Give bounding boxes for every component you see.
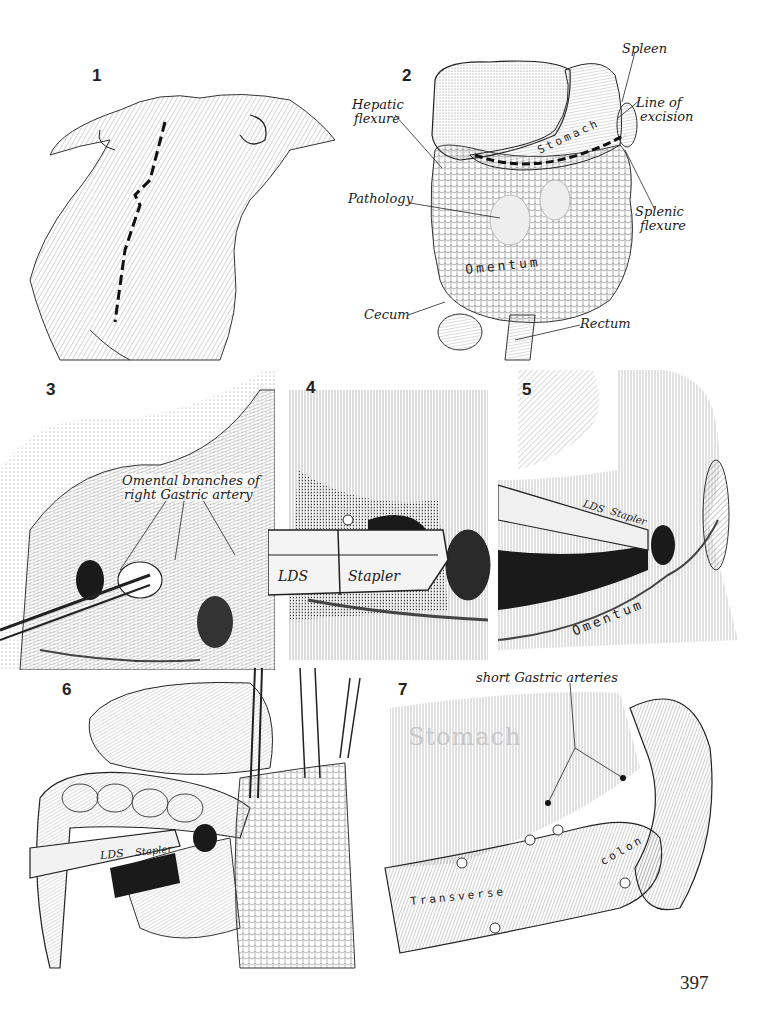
- figure-number-3: 3: [46, 380, 55, 400]
- label-omental-branches-1: Omental branches of: [122, 474, 260, 487]
- label-rectum: Rectum: [580, 317, 631, 330]
- page-number: 397: [680, 972, 709, 994]
- label-spleen: Spleen: [622, 42, 667, 55]
- label-cecum: Cecum: [364, 308, 410, 321]
- label-short-gastric-arteries: short Gastric arteries: [476, 671, 618, 684]
- label-pathology: Pathology: [348, 192, 413, 205]
- label-hepatic-2: flexure: [354, 112, 400, 125]
- figure-1-torso-incision: 1: [0, 60, 340, 370]
- figure-3-omental-branches: 3 Omental branches of right Gastric arte…: [0, 370, 275, 670]
- figure-number-1: 1: [92, 66, 101, 86]
- stapler-label-lds: LDS: [278, 570, 308, 583]
- omental-dissection-illustration: [0, 370, 275, 670]
- figure-number-2: 2: [402, 66, 411, 86]
- figure-number-6: 6: [62, 680, 71, 700]
- label-splenic-1: Splenic: [635, 205, 684, 218]
- label-stomach-faded: Stomach: [408, 723, 522, 751]
- gastric-colon-illustration: [380, 668, 750, 968]
- label-line-of-excision-1: Line of: [636, 96, 682, 109]
- stapler-label-lds: LDS: [99, 847, 124, 862]
- stapler-dissection-illustration: [268, 380, 498, 665]
- figure-7-short-gastric-arteries: 7 short Gastric arteries Stomach Transve…: [380, 668, 750, 968]
- figure-6-colon-stapler: 6 LDS Stapler: [0, 668, 380, 970]
- figure-number-7: 7: [398, 680, 407, 700]
- figure-2-abdominal-overview: 2 Spleen Hepatic flexure Line of excisio…: [340, 40, 760, 370]
- label-line-of-excision-2: excision: [640, 110, 694, 123]
- colon-stapling-illustration: [0, 668, 380, 970]
- figure-number-5: 5: [522, 380, 531, 400]
- figure-number-4: 4: [306, 380, 315, 398]
- torso-illustration: [0, 60, 340, 370]
- stapler-label-stapler: Stapler: [348, 570, 400, 583]
- label-omental-branches-2: right Gastric artery: [124, 488, 253, 501]
- figure-5-stapler-omentum: 5 LDS Stapler Omentum: [498, 370, 763, 665]
- label-splenic-2: flexure: [640, 219, 686, 232]
- figure-4-lds-stapler: 4 LDS Stapler: [268, 380, 498, 665]
- label-hepatic-1: Hepatic: [352, 98, 404, 111]
